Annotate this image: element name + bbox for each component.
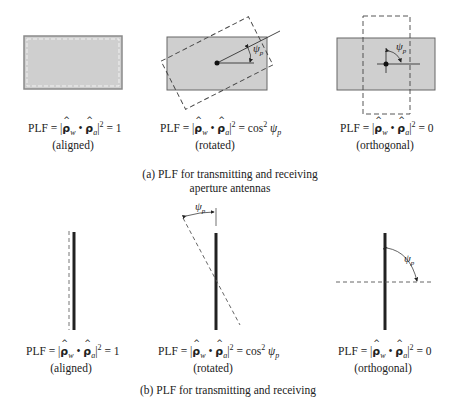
angle-label-a-orthogonal: ψp (396, 40, 406, 55)
equation-a-rotated: PLF = |ρw • ρa|2 = cos2 ψp (rotated) (160, 118, 270, 152)
aperture-orthogonal (337, 16, 435, 114)
aperture-rotated (161, 17, 280, 110)
angle-label-a-rotated: ψp (253, 42, 263, 57)
equation-b-orthogonal: PLF = |ρw • ρa|2 = 0 (orthogonal) (338, 341, 428, 375)
angle-label-b-orthogonal: ψp (404, 252, 414, 267)
angle-label-b-rotated: ψp (195, 200, 205, 215)
caption-b: (b) PLF for transmitting and receiving (128, 383, 328, 397)
caption-a: (a) PLF for transmitting and receiving a… (130, 167, 330, 195)
equation-b-aligned: PLF = |ρw • ρa|2 = 1 (aligned) (26, 341, 116, 375)
wire-aligned (69, 231, 74, 330)
equation-a-orthogonal: PLF = |ρw • ρa|2 = 0 (orthogonal) (340, 118, 430, 152)
equation-a-aligned: PLF = |ρw • ρa|2 = 1 (aligned) (28, 118, 118, 152)
aperture-aligned (24, 36, 122, 89)
equation-b-rotated: PLF = |ρw • ρa|2 = cos2 ψp (rotated) (158, 341, 268, 375)
wire-orthogonal (336, 233, 432, 330)
wire-rotated (183, 208, 240, 330)
